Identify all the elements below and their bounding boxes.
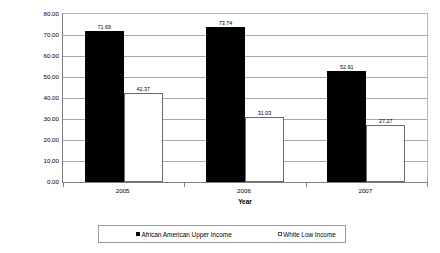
- y-axis-tick-label: 60.00: [19, 52, 59, 59]
- chart-legend: African American Upper IncomeWhite Low I…: [98, 225, 346, 243]
- bar-2007-series-1: [366, 125, 405, 182]
- bar-value-label: 73.74: [206, 20, 245, 26]
- bar-value-label: 31.03: [245, 110, 284, 116]
- x-axis-title: Year: [62, 198, 428, 205]
- bar-2006-series-0: [206, 27, 245, 182]
- bar-2006-series-1: [245, 117, 284, 182]
- plot-area: 71.6942.3773.7431.0352.9127.27: [62, 13, 428, 183]
- y-axis-tick-label: 80.00: [19, 10, 59, 17]
- legend-label: White Low Income: [283, 231, 336, 238]
- y-axis-tick-label: 70.00: [19, 31, 59, 38]
- y-axis-tick-label: 30.00: [19, 115, 59, 122]
- bar-2007-series-0: [327, 71, 366, 182]
- bar-value-label: 42.37: [124, 86, 163, 92]
- bar-2005-series-0: [85, 31, 124, 182]
- bar-2005-series-1: [124, 93, 163, 182]
- bar-chart: Percent High-Cost 80.0070.0060.0050.0040…: [0, 0, 440, 253]
- y-axis-tick-label: 0.00: [19, 178, 59, 185]
- x-axis-tick-label-2006: 2006: [183, 187, 304, 195]
- legend-swatch-icon: [278, 232, 282, 236]
- bar-value-label: 52.91: [327, 64, 366, 70]
- bar-value-label: 27.27: [366, 118, 405, 124]
- x-axis-tick-label-2007: 2007: [305, 187, 426, 195]
- bar-value-label: 71.69: [85, 24, 124, 30]
- legend-swatch-icon: [136, 232, 140, 236]
- y-axis-tick-label: 40.00: [19, 94, 59, 101]
- x-axis-tick-label-2005: 2005: [62, 187, 183, 195]
- legend-entry-1[interactable]: White Low Income: [278, 231, 336, 238]
- y-axis-tick-label: 50.00: [19, 73, 59, 80]
- legend-label: African American Upper Income: [142, 231, 232, 238]
- y-axis-tick-label: 10.00: [19, 157, 59, 164]
- y-axis-tick-label: 20.00: [19, 136, 59, 143]
- legend-entry-0[interactable]: African American Upper Income: [136, 231, 232, 238]
- y-axis-tick-labels: 80.0070.0060.0050.0040.0030.0020.0010.00…: [18, 13, 59, 183]
- x-axis-tick: [427, 182, 428, 187]
